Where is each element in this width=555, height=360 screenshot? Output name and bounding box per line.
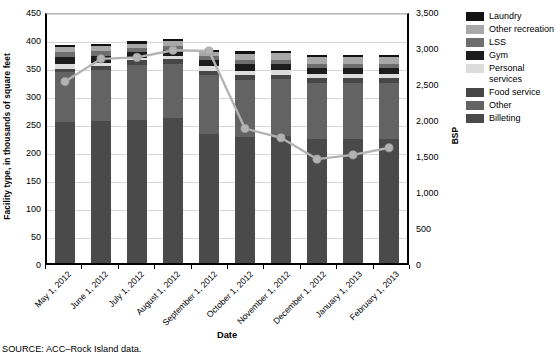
legend-item[interactable]: Other [466, 100, 555, 111]
bsp-data-point[interactable] [349, 151, 357, 159]
y-tick-right: 3,000 [416, 45, 439, 54]
legend: LaundryOther recreationLSSGymPersonal se… [466, 11, 555, 126]
y-tick-right: 1,500 [416, 153, 439, 162]
legend-label: Other [489, 100, 512, 111]
legend-label: Laundry [489, 11, 522, 22]
legend-item[interactable]: LSS [466, 37, 555, 48]
legend-item[interactable]: Personal services [466, 63, 555, 84]
bsp-data-point[interactable] [97, 55, 105, 63]
bsp-line-series [47, 14, 407, 263]
y-tick-left: 200 [26, 149, 41, 158]
bsp-data-point[interactable] [313, 155, 321, 163]
legend-swatch [466, 88, 484, 97]
legend-swatch [466, 38, 484, 47]
legend-swatch [466, 101, 484, 110]
bsp-data-point[interactable] [133, 53, 141, 61]
y-tick-left: 450 [26, 9, 41, 18]
y-tick-left: 150 [26, 177, 41, 186]
y-tick-left: 400 [26, 37, 41, 46]
bsp-data-point[interactable] [277, 134, 285, 142]
chart-figure: Facility type, in thousands of square fe… [0, 0, 555, 360]
legend-item[interactable]: Laundry [466, 11, 555, 22]
y-tick-right: 2,000 [416, 117, 439, 126]
y-axis-left-ticks: 050100150200250300350400450 [14, 0, 44, 272]
bsp-data-point[interactable] [385, 144, 393, 152]
y-tick-right: 500 [416, 225, 431, 234]
bsp-data-point[interactable] [241, 124, 249, 132]
y-tick-right: 0 [416, 261, 421, 270]
x-axis-title: Date [45, 330, 409, 340]
legend-swatch [466, 114, 484, 123]
legend-item[interactable]: Gym [466, 50, 555, 61]
legend-swatch [466, 51, 484, 60]
y-tick-left: 50 [31, 233, 41, 242]
y-tick-left: 100 [26, 205, 41, 214]
bsp-line [65, 50, 389, 159]
legend-item[interactable]: Billeting [466, 113, 555, 124]
bsp-data-point[interactable] [61, 78, 69, 86]
y-tick-right: 3,500 [416, 9, 439, 18]
legend-label: Gym [489, 50, 508, 61]
source-note: SOURCE: ACC–Rock Island data. [2, 344, 141, 354]
legend-label: Other recreation [489, 24, 554, 35]
y-tick-left: 300 [26, 93, 41, 102]
legend-label: LSS [489, 37, 506, 48]
legend-swatch [466, 25, 484, 34]
legend-item[interactable]: Other recreation [466, 24, 555, 35]
bsp-data-point[interactable] [205, 47, 213, 55]
y-tick-left: 250 [26, 121, 41, 130]
legend-swatch [466, 12, 484, 21]
legend-label: Personal services [489, 63, 555, 84]
y-axis-right-title: BSP [447, 0, 463, 272]
legend-swatch [466, 64, 484, 73]
y-tick-left: 0 [36, 261, 41, 270]
plot-area [45, 13, 409, 265]
y-tick-left: 350 [26, 65, 41, 74]
bsp-data-point[interactable] [169, 46, 177, 54]
legend-label: Billeting [489, 113, 521, 124]
legend-label: Food service [489, 87, 541, 98]
y-tick-right: 2,500 [416, 81, 439, 90]
x-axis-labels: May 1, 2012June 1, 2012July 1, 2012Augus… [45, 267, 409, 329]
y-tick-right: 1,000 [416, 189, 439, 198]
legend-item[interactable]: Food service [466, 87, 555, 98]
